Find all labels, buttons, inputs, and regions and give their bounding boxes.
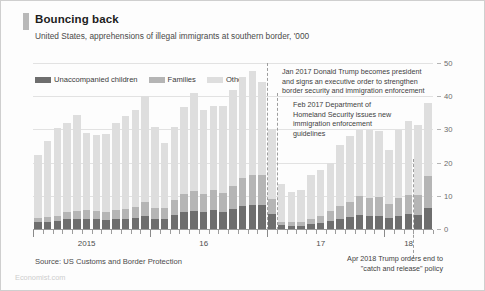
- bar-segment: [190, 211, 198, 229]
- event-marker-line-feb-2017: [277, 93, 278, 230]
- bar-segment: [258, 82, 266, 175]
- bar-column[interactable]: [199, 63, 209, 229]
- y-axis-label-50: 50: [444, 59, 452, 68]
- bar-segment: [239, 77, 247, 178]
- bar-segment: [229, 209, 237, 229]
- bar-stack: [375, 131, 383, 229]
- bar-column[interactable]: [72, 63, 82, 229]
- bar-segment: [171, 200, 179, 215]
- bar-segment: [375, 197, 383, 215]
- bar-segment: [210, 210, 218, 229]
- bar-column[interactable]: [248, 63, 258, 229]
- bar-segment: [346, 202, 354, 217]
- bar-column[interactable]: [121, 63, 131, 229]
- bar-segment: [268, 199, 276, 214]
- bar-segment: [395, 130, 403, 197]
- bar-segment: [375, 216, 383, 229]
- x-axis-tick: [170, 230, 171, 234]
- bar-column[interactable]: [189, 63, 199, 229]
- bar-stack: [405, 121, 413, 229]
- y-axis-tick-10: [437, 196, 441, 197]
- bar-segment: [375, 131, 383, 197]
- bar-column[interactable]: [62, 63, 72, 229]
- bar-column[interactable]: [92, 63, 102, 229]
- bar-segment: [161, 219, 169, 229]
- bar-stack: [219, 106, 227, 229]
- bar-stack: [132, 110, 140, 230]
- x-axis-tick: [326, 230, 327, 234]
- bar-segment: [132, 110, 140, 208]
- x-axis-tick: [404, 230, 405, 234]
- bar-stack: [278, 184, 286, 229]
- bar-segment: [93, 211, 101, 219]
- bar-stack: [93, 135, 101, 229]
- bar-segment: [336, 206, 344, 219]
- bar-segment: [73, 219, 81, 229]
- annotation-feb-2017: Feb 2017 Department of Homeland Security…: [293, 100, 405, 138]
- bar-segment: [395, 216, 403, 229]
- bar-stack: [190, 93, 198, 229]
- bar-column[interactable]: [111, 63, 121, 229]
- bar-column[interactable]: [267, 63, 277, 229]
- x-axis-tick: [209, 230, 210, 234]
- x-axis-tick: [394, 230, 395, 234]
- bar-column[interactable]: [131, 63, 141, 229]
- bar-stack: [356, 130, 364, 229]
- bar-column[interactable]: [101, 63, 111, 229]
- bar-stack: [346, 136, 354, 229]
- bar-column[interactable]: [43, 63, 53, 229]
- bar-segment: [112, 210, 120, 219]
- bar-stack: [180, 107, 188, 229]
- bar-segment: [180, 212, 188, 229]
- bar-segment: [258, 175, 266, 205]
- bar-segment: [112, 219, 120, 229]
- x-axis-tick: [248, 230, 249, 234]
- bar-stack: [112, 123, 120, 229]
- x-axis-tick: [53, 230, 54, 234]
- bar-segment: [327, 163, 335, 212]
- brand-footer: Economist.com: [15, 273, 66, 282]
- bar-segment: [317, 170, 325, 216]
- bar-column[interactable]: [140, 63, 150, 229]
- bar-column[interactable]: [82, 63, 92, 229]
- bar-segment: [356, 130, 364, 196]
- bar-stack: [249, 71, 257, 229]
- bar-column[interactable]: [33, 63, 43, 229]
- bar-segment: [239, 178, 247, 206]
- x-axis-label-17: 17: [316, 239, 325, 248]
- x-axis-tick: [238, 230, 239, 234]
- bar-segment: [249, 71, 257, 175]
- bar-segment: [132, 207, 140, 218]
- bar-segment: [180, 107, 188, 194]
- y-axis-tick-40: [437, 96, 441, 97]
- bar-segment: [366, 198, 374, 216]
- bar-segment: [297, 190, 305, 222]
- x-axis-tick: [218, 230, 219, 234]
- x-axis-tick: [82, 230, 83, 234]
- bar-segment: [200, 194, 208, 212]
- bar-column[interactable]: [228, 63, 238, 229]
- event-marker-line-jan-2017: [267, 63, 268, 230]
- bar-column[interactable]: [53, 63, 63, 229]
- bar-segment: [414, 195, 422, 215]
- source-note: Source: US Customs and Border Protection: [35, 257, 182, 266]
- x-axis-tick-major: [384, 230, 385, 237]
- bar-column[interactable]: [218, 63, 228, 229]
- bar-column[interactable]: [238, 63, 248, 229]
- bar-segment: [336, 145, 344, 206]
- bar-column[interactable]: [209, 63, 219, 229]
- bar-segment: [63, 212, 71, 219]
- bar-column[interactable]: [170, 63, 180, 229]
- bar-column[interactable]: [257, 63, 267, 229]
- bar-segment: [327, 211, 335, 221]
- bar-segment: [219, 212, 227, 229]
- bar-segment: [102, 134, 110, 212]
- bar-column[interactable]: [179, 63, 189, 229]
- bar-column[interactable]: [160, 63, 170, 229]
- bar-segment: [190, 191, 198, 211]
- x-axis-tick: [72, 230, 73, 234]
- bar-segment: [229, 90, 237, 186]
- bar-stack: [424, 103, 432, 229]
- bar-column[interactable]: [150, 63, 160, 229]
- bar-segment: [249, 175, 257, 205]
